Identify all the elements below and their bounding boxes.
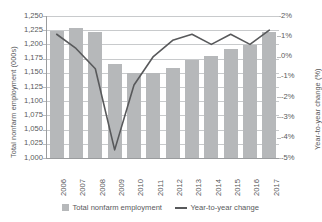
y-tick-label-right: -1% bbox=[281, 72, 307, 81]
y-tick-label-left: 1,200 bbox=[12, 40, 43, 49]
chart-legend: Total nonfarm employment Year-to-year ch… bbox=[0, 203, 321, 212]
plot-area bbox=[46, 16, 279, 159]
y-tick-label-right: 0% bbox=[281, 52, 307, 61]
legend-label-line: Year-to-year change bbox=[190, 203, 259, 212]
x-tick-label: 2011 bbox=[156, 180, 165, 196]
x-tick-label: 2017 bbox=[272, 179, 281, 196]
x-tick-label: 2015 bbox=[233, 179, 242, 196]
y-tick-label-left: 1,025 bbox=[12, 139, 43, 148]
y-tick-label-right: -4% bbox=[281, 133, 307, 142]
y-tick-label-right: 2% bbox=[281, 12, 307, 21]
x-tick-label: 2013 bbox=[194, 179, 203, 196]
line-series bbox=[47, 16, 279, 158]
y-tick-label-left: 1,050 bbox=[12, 125, 43, 134]
y-tick-label-left: 1,250 bbox=[12, 12, 43, 21]
y-tick-label-right: -2% bbox=[281, 93, 307, 102]
y-tick-label-left: 1,225 bbox=[12, 26, 43, 35]
y-tick-label-left: 1,075 bbox=[12, 111, 43, 120]
x-tick-label: 2010 bbox=[136, 179, 145, 196]
y-tick-label-left: 1,000 bbox=[12, 154, 43, 163]
legend-item-bar: Total nonfarm employment bbox=[62, 203, 162, 212]
x-tick-label: 2012 bbox=[175, 179, 184, 196]
y-tick-label-left: 1,125 bbox=[12, 83, 43, 92]
y-axis-right-title: Year-to-year change (%) bbox=[313, 68, 322, 150]
y-tick-label-left: 1,175 bbox=[12, 54, 43, 63]
y-tick-label-left: 1,150 bbox=[12, 68, 43, 77]
y-tick-label-right: -5% bbox=[281, 154, 307, 163]
x-tick-label: 2014 bbox=[214, 179, 223, 196]
x-tick-label: 2008 bbox=[98, 179, 107, 196]
x-tick-label: 2007 bbox=[78, 179, 87, 196]
x-tick-label: 2006 bbox=[59, 179, 68, 196]
legend-label-bar: Total nonfarm employment bbox=[72, 203, 161, 212]
x-tick-label: 2009 bbox=[117, 179, 126, 196]
y-tick-label-right: 1% bbox=[281, 32, 307, 41]
line-swatch-icon bbox=[175, 207, 187, 209]
legend-item-line: Year-to-year change bbox=[175, 203, 259, 212]
y-tick-label-left: 1,100 bbox=[12, 97, 43, 106]
x-tick-label: 2016 bbox=[252, 179, 261, 196]
bar-swatch-icon bbox=[62, 204, 69, 211]
y-tick-label-right: -3% bbox=[281, 113, 307, 122]
